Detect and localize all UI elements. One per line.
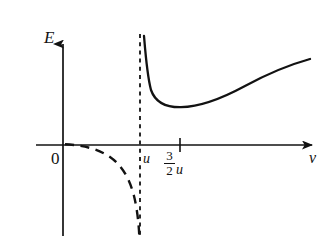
fraction-unit-label: u: [176, 163, 183, 178]
fraction-three-halves: 3 2: [164, 149, 175, 178]
y-axis-label: E: [44, 29, 54, 46]
x-tick-label-three-halves-u: 3 2 u: [164, 149, 183, 178]
figure-root: ) E v 0 u 3 2 u: [0, 0, 331, 236]
curve-dashed-branch: [65, 144, 139, 236]
fraction-denominator: 2: [165, 164, 174, 177]
x-axis-label: v: [309, 150, 316, 166]
origin-label: 0: [51, 150, 60, 167]
curve-solid-branch: [144, 36, 310, 107]
fraction-numerator: 3: [165, 149, 174, 162]
x-tick-label-u: u: [143, 152, 150, 166]
